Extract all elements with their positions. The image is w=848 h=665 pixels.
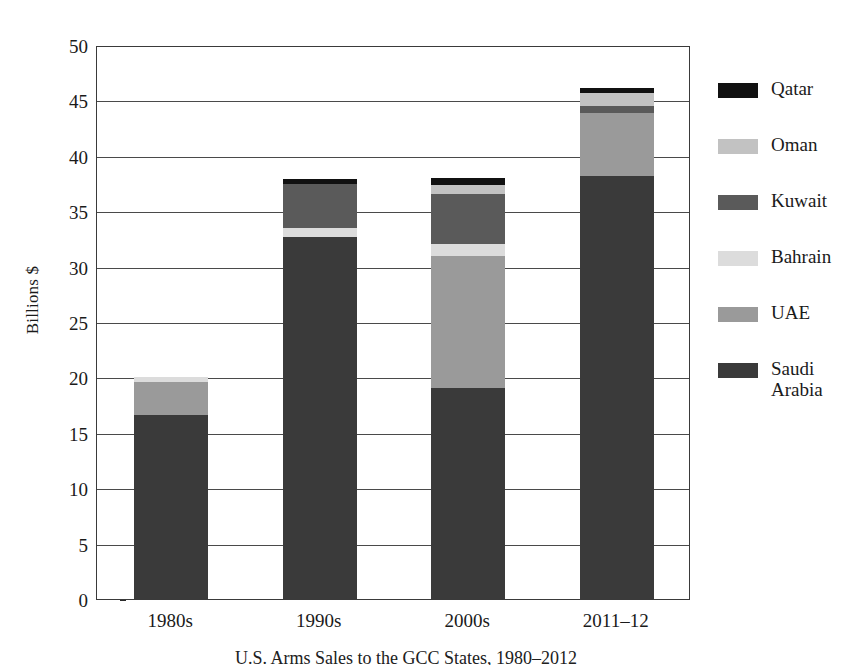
x-axis-tick-label: 1980s xyxy=(100,610,240,632)
bar-segment-uae[interactable] xyxy=(431,256,505,389)
y-axis-tick-label: 25 xyxy=(32,314,88,333)
y-axis-ticks: 50454035302520151050 xyxy=(30,0,88,665)
legend-swatch-icon xyxy=(718,363,758,378)
legend-item[interactable]: Oman xyxy=(718,135,848,191)
bar-segment-saudi-arabia[interactable] xyxy=(580,176,654,599)
figure-caption: U.S. Arms Sales to the GCC States, 1980–… xyxy=(96,648,716,665)
y-axis-tick-label: 45 xyxy=(32,92,88,111)
y-axis-tick-label: 50 xyxy=(32,37,88,56)
legend-item-label: Kuwait xyxy=(771,191,827,212)
chart-figure: Billions $ 50454035302520151050 QatarOma… xyxy=(0,0,848,665)
bar-segment-qatar[interactable] xyxy=(431,178,505,185)
legend-swatch-icon xyxy=(718,83,758,98)
legend-item-label: Oman xyxy=(771,135,817,156)
x-axis-tick-label: 2011–12 xyxy=(546,610,686,632)
bar-segment-oman[interactable] xyxy=(580,93,654,106)
y-axis-tick-label: 0 xyxy=(32,591,88,610)
bar-segment-uae[interactable] xyxy=(580,113,654,176)
bar-segment-saudi-arabia[interactable] xyxy=(431,388,505,599)
bar-2011-12[interactable] xyxy=(580,88,654,599)
y-axis-tick-label: 15 xyxy=(32,424,88,443)
legend-swatch-icon xyxy=(718,195,758,210)
plot-area xyxy=(96,46,690,600)
x-axis-tick-label: 1990s xyxy=(249,610,389,632)
legend-item[interactable]: Saudi Arabia xyxy=(718,359,848,415)
legend-item[interactable]: UAE xyxy=(718,303,848,359)
y-axis-tick-label: 5 xyxy=(32,535,88,554)
bar-segment-bahrain[interactable] xyxy=(283,228,357,237)
bar-segment-bahrain[interactable] xyxy=(431,244,505,255)
legend-item[interactable]: Bahrain xyxy=(718,247,848,303)
legend-swatch-icon xyxy=(718,307,758,322)
bar-1980s[interactable] xyxy=(134,377,208,599)
bar-segment-saudi-arabia[interactable] xyxy=(283,237,357,599)
bar-segment-uae[interactable] xyxy=(134,382,208,415)
bar-segment-oman[interactable] xyxy=(431,185,505,194)
legend-swatch-icon xyxy=(718,139,758,154)
legend-item-label: Qatar xyxy=(771,79,813,100)
y-axis-tick-label: 35 xyxy=(32,203,88,222)
y-axis-tick-label: 40 xyxy=(32,147,88,166)
bar-2000s[interactable] xyxy=(431,178,505,599)
y-axis-tick-mark xyxy=(120,600,126,601)
legend-item[interactable]: Kuwait xyxy=(718,191,848,247)
y-axis-tick-label: 30 xyxy=(32,258,88,277)
bar-segment-kuwait[interactable] xyxy=(580,106,654,113)
bar-segment-kuwait[interactable] xyxy=(431,194,505,245)
y-axis-tick-label: 10 xyxy=(32,480,88,499)
legend-item-label: Bahrain xyxy=(771,247,831,268)
bar-segment-kuwait[interactable] xyxy=(283,184,357,228)
y-axis-tick-label: 20 xyxy=(32,369,88,388)
bar-1990s[interactable] xyxy=(283,179,357,599)
legend-item-label: UAE xyxy=(771,303,810,324)
legend-item[interactable]: Qatar xyxy=(718,79,848,135)
bar-segment-saudi-arabia[interactable] xyxy=(134,415,208,599)
legend-item-label: Saudi Arabia xyxy=(771,359,823,400)
chart-legend: QatarOmanKuwaitBahrainUAESaudi Arabia xyxy=(718,79,848,415)
legend-swatch-icon xyxy=(718,251,758,266)
x-axis-tick-label: 2000s xyxy=(397,610,537,632)
